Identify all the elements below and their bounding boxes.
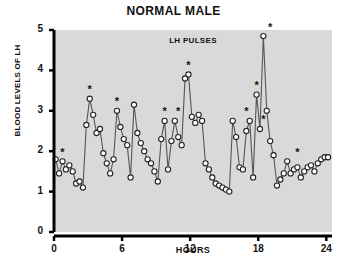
y-tick-label: 4 (21, 63, 43, 74)
y-tick-label: 3 (21, 104, 43, 115)
y-tick-label: 5 (21, 23, 43, 34)
plot-area: LH PULSES (54, 30, 332, 232)
x-tick-label: 6 (110, 243, 134, 254)
chart-annotation-lh-pulses: LH PULSES (54, 36, 332, 45)
x-tick-label: 24 (314, 243, 338, 254)
lh-pulse-chart: NORMAL MALE LH PULSES BLOOD LEVELS OF LH… (0, 0, 347, 261)
y-tick-label: 2 (21, 144, 43, 155)
y-axis-label: BLOOD LEVELS OF LH (13, 16, 22, 166)
x-tick-label: 0 (42, 243, 66, 254)
y-tick-label: 0 (21, 225, 43, 236)
x-tick-label: 18 (246, 243, 270, 254)
chart-title: NORMAL MALE (0, 4, 347, 18)
y-tick-label: 1 (21, 185, 43, 196)
x-tick-label: 12 (178, 243, 202, 254)
